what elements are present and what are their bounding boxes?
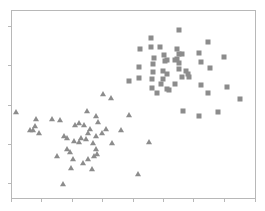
square-marker [150, 77, 155, 82]
square-marker [163, 59, 168, 64]
square-marker [216, 110, 221, 115]
triangle-marker [13, 109, 19, 114]
square-marker [197, 114, 202, 119]
triangle-marker [60, 181, 66, 186]
square-marker [137, 76, 142, 81]
triangle-marker [118, 127, 124, 132]
plot-border [12, 11, 256, 199]
triangle-marker [36, 130, 42, 135]
triangle-marker [100, 91, 106, 96]
square-marker [180, 52, 185, 57]
square-marker [238, 97, 243, 102]
square-marker [155, 91, 160, 96]
plot-frame [12, 11, 256, 199]
triangle-marker [70, 156, 76, 161]
square-marker [151, 62, 156, 67]
square-marker [167, 88, 172, 93]
square-marker [222, 55, 227, 60]
triangle-marker [54, 153, 60, 158]
triangle-marker [93, 113, 99, 118]
square-marker [149, 36, 154, 41]
square-marker [173, 82, 178, 87]
square-marker [158, 45, 163, 50]
triangle-marker [68, 165, 74, 170]
data-points [13, 28, 243, 187]
triangle-marker [90, 140, 96, 145]
triangle-marker [85, 156, 91, 161]
triangle-marker [84, 108, 90, 113]
square-marker [177, 67, 182, 72]
triangle-marker [33, 116, 39, 121]
triangle-marker [80, 160, 86, 165]
square-marker [162, 53, 167, 58]
triangle-marker [81, 122, 87, 127]
triangle-marker [109, 140, 115, 145]
square-marker [149, 45, 154, 50]
triangle-marker [108, 95, 114, 100]
triangle-marker [126, 112, 132, 117]
triangle-marker [89, 166, 95, 171]
triangle-marker [76, 120, 82, 125]
triangle-marker [93, 146, 99, 151]
square-marker [206, 40, 211, 45]
triangle-marker [103, 126, 109, 131]
square-marker [138, 47, 143, 52]
square-marker [150, 86, 155, 91]
square-marker [127, 79, 132, 84]
triangle-marker [146, 139, 152, 144]
triangle-marker [93, 133, 99, 138]
triangle-marker [71, 138, 77, 143]
triangle-marker [83, 136, 89, 141]
square-marker [197, 51, 202, 56]
triangle-marker [64, 146, 70, 151]
square-marker [206, 91, 211, 96]
square-marker [177, 28, 182, 33]
square-marker [165, 72, 170, 77]
square-marker [187, 75, 192, 80]
square-marker [137, 65, 142, 70]
square-marker [175, 47, 180, 52]
square-marker [151, 70, 156, 75]
square-marker [161, 77, 166, 82]
square-marker [208, 66, 213, 71]
square-marker [225, 85, 230, 90]
square-marker [181, 109, 186, 114]
square-marker [199, 83, 204, 88]
square-marker [152, 56, 157, 61]
triangle-marker [135, 171, 141, 176]
square-marker [199, 60, 204, 65]
square-marker [177, 61, 182, 66]
square-marker [159, 82, 164, 87]
square-marker [180, 75, 185, 80]
triangle-marker [95, 119, 101, 124]
scatter-chart [0, 0, 265, 211]
triangle-marker [49, 116, 55, 121]
triangle-marker [57, 117, 63, 122]
